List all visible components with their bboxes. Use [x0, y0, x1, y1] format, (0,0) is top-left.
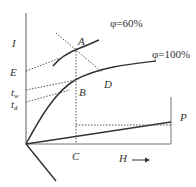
arrow-right-icon: [145, 158, 150, 163]
td-dotted: [26, 90, 70, 102]
axis-label-h: H: [118, 152, 128, 164]
point-d-label: D: [103, 78, 112, 90]
curve-label-100: φ=100%: [152, 48, 190, 60]
curve-label-60: φ=60%: [110, 17, 143, 29]
point-c-label: C: [72, 150, 80, 162]
label-p: P: [179, 111, 187, 123]
lower-diagonal-line: [26, 144, 56, 181]
point-a-label: A: [77, 35, 85, 47]
label-td: td: [11, 98, 18, 112]
point-b-label: B: [79, 86, 86, 98]
axis-label-i: I: [11, 37, 17, 49]
saturation-curve-100: [26, 61, 156, 144]
psychrometric-diagram: I H E tw td A B C D P φ=60% φ=100%: [0, 0, 196, 187]
label-e: E: [9, 66, 17, 78]
humidity-curve-60: [53, 40, 99, 66]
